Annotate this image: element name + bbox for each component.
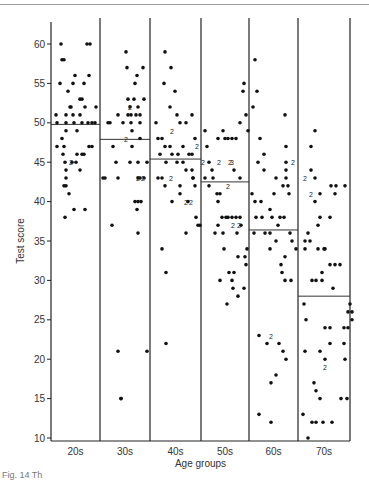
data-point bbox=[80, 97, 84, 101]
data-point bbox=[55, 121, 59, 125]
data-point bbox=[178, 184, 182, 188]
data-point bbox=[346, 310, 350, 314]
data-point bbox=[132, 97, 136, 101]
data-point bbox=[72, 121, 76, 125]
data-point bbox=[283, 255, 287, 259]
coincident-count-label: 2 bbox=[237, 222, 241, 229]
y-tick-label: 25 bbox=[34, 314, 46, 325]
data-point bbox=[303, 239, 307, 243]
data-point bbox=[253, 200, 257, 204]
coincident-count-label: 2 bbox=[124, 136, 128, 143]
data-point bbox=[230, 279, 234, 283]
data-point bbox=[246, 129, 250, 133]
coincident-count-label: 2 bbox=[201, 159, 205, 166]
data-point bbox=[160, 247, 164, 251]
data-point bbox=[284, 357, 288, 361]
data-point bbox=[260, 216, 264, 220]
data-point bbox=[136, 231, 140, 235]
data-point bbox=[314, 420, 318, 424]
data-point bbox=[253, 58, 257, 62]
data-point bbox=[124, 50, 128, 54]
data-point bbox=[281, 350, 285, 354]
data-point bbox=[312, 381, 316, 385]
coincident-count-label: 2 bbox=[291, 159, 295, 166]
data-point bbox=[348, 302, 352, 306]
data-point bbox=[328, 326, 332, 330]
data-point bbox=[268, 247, 272, 251]
data-point bbox=[62, 145, 66, 149]
data-point bbox=[274, 373, 278, 377]
data-point bbox=[63, 160, 67, 164]
data-point bbox=[230, 216, 234, 220]
data-point bbox=[252, 231, 256, 235]
data-point bbox=[328, 216, 332, 220]
data-point bbox=[138, 137, 142, 141]
data-point bbox=[205, 145, 209, 149]
data-point bbox=[207, 160, 211, 164]
data-point bbox=[231, 286, 235, 290]
data-point bbox=[170, 153, 174, 157]
data-point bbox=[313, 176, 317, 180]
data-point bbox=[94, 105, 98, 109]
data-point bbox=[130, 145, 134, 149]
data-point bbox=[110, 223, 114, 227]
data-point bbox=[139, 200, 143, 204]
data-point bbox=[72, 208, 76, 212]
data-point bbox=[283, 279, 287, 283]
data-point bbox=[207, 184, 211, 188]
data-point bbox=[64, 129, 68, 133]
data-point bbox=[64, 184, 68, 188]
data-point bbox=[304, 318, 308, 322]
data-point bbox=[190, 153, 194, 157]
data-point bbox=[210, 168, 214, 172]
data-point bbox=[164, 342, 168, 346]
x-category-label: 30s bbox=[117, 446, 133, 457]
data-point bbox=[320, 279, 324, 283]
data-point bbox=[244, 113, 248, 117]
data-point bbox=[230, 137, 234, 141]
data-point bbox=[303, 350, 307, 354]
data-point bbox=[284, 160, 288, 164]
data-point bbox=[250, 192, 254, 196]
data-point bbox=[235, 231, 239, 235]
data-point bbox=[328, 342, 332, 346]
data-point bbox=[218, 279, 222, 283]
data-point bbox=[226, 137, 230, 141]
data-point bbox=[263, 231, 267, 235]
data-point bbox=[238, 216, 242, 220]
y-axis-title: Test score bbox=[15, 218, 26, 264]
scatter-chart: 1015202530354045505560Test score20s30s40… bbox=[0, 0, 369, 470]
data-point bbox=[284, 145, 288, 149]
data-point bbox=[303, 247, 307, 251]
data-point bbox=[342, 326, 346, 330]
data-point bbox=[67, 192, 71, 196]
data-point bbox=[221, 129, 225, 133]
data-point bbox=[87, 74, 91, 78]
data-point bbox=[60, 137, 64, 141]
data-point bbox=[323, 357, 327, 361]
data-point bbox=[126, 97, 130, 101]
coincident-count-label: 2 bbox=[141, 175, 145, 182]
data-point bbox=[222, 247, 226, 251]
data-point bbox=[158, 153, 162, 157]
data-point bbox=[274, 239, 278, 243]
coincident-count-label: 2 bbox=[170, 128, 174, 135]
data-point bbox=[156, 137, 160, 141]
x-category-label: 40s bbox=[167, 446, 183, 457]
data-point bbox=[116, 176, 120, 180]
data-point bbox=[190, 168, 194, 172]
data-point bbox=[78, 113, 82, 117]
data-point bbox=[111, 145, 115, 149]
data-point bbox=[314, 389, 318, 393]
coincident-count-label: 2 bbox=[69, 159, 73, 166]
data-point bbox=[310, 420, 314, 424]
data-point bbox=[331, 286, 335, 290]
data-point bbox=[276, 223, 280, 227]
data-point bbox=[175, 113, 179, 117]
data-point bbox=[71, 113, 75, 117]
data-point bbox=[169, 66, 173, 70]
data-point bbox=[203, 129, 207, 133]
data-point bbox=[318, 216, 322, 220]
data-point bbox=[93, 121, 97, 125]
data-point bbox=[216, 223, 220, 227]
